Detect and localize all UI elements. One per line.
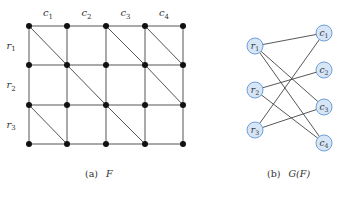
- grid-diagonal-edge: [145, 26, 183, 65]
- grid-node: [142, 141, 148, 147]
- row-label: r2: [6, 79, 15, 93]
- grid-diagonal-edge: [145, 65, 183, 105]
- grid-node: [180, 62, 186, 68]
- row-label: r1: [6, 40, 15, 54]
- bipartite-edge: [255, 33, 324, 130]
- row-label: r3: [6, 119, 15, 133]
- grid-node: [26, 62, 32, 68]
- grid-diagonal-edge: [67, 65, 106, 105]
- caption-a-var: F: [106, 168, 113, 179]
- caption-b: (b)G(F): [267, 168, 310, 179]
- bipartite-edge: [255, 33, 324, 46]
- caption-b-label: (b): [267, 168, 281, 179]
- bipartite-edge: [255, 46, 324, 143]
- grid-diagonal-edge: [29, 105, 67, 144]
- grid-diagonal-edge: [106, 105, 145, 144]
- grid-node: [64, 62, 70, 68]
- column-label: c3: [120, 7, 130, 21]
- grid-node: [103, 23, 109, 29]
- grid-node: [180, 23, 186, 29]
- grid-node: [64, 102, 70, 108]
- column-label: c4: [159, 7, 170, 21]
- grid-node: [26, 141, 32, 147]
- grid-node: [180, 102, 186, 108]
- column-label: c1: [43, 7, 53, 21]
- grid-node: [142, 102, 148, 108]
- bipartite-edge: [255, 70, 324, 90]
- grid-node: [103, 62, 109, 68]
- caption-a: (a)F: [85, 168, 113, 179]
- grid-node: [64, 141, 70, 147]
- grid-node: [26, 23, 32, 29]
- grid-diagonal-edge: [106, 26, 145, 65]
- grid-diagonal-edge: [29, 26, 67, 65]
- bipartite-edge: [255, 107, 324, 130]
- column-label: c2: [81, 7, 91, 21]
- grid-node: [142, 23, 148, 29]
- grid-node: [64, 23, 70, 29]
- caption-b-var: G(F): [289, 168, 311, 179]
- grid-node: [142, 62, 148, 68]
- grid-node: [103, 102, 109, 108]
- grid-node: [180, 141, 186, 147]
- grid-node: [26, 102, 32, 108]
- caption-a-label: (a): [85, 168, 98, 179]
- grid-node: [103, 141, 109, 147]
